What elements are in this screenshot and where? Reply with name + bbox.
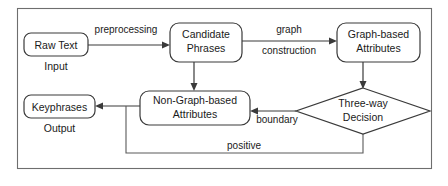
boundary-label: boundary [256,114,298,125]
preprocessing-label: preprocessing [95,24,158,35]
node-non-graph-based-attributes-label-2: Attributes [173,108,217,120]
node-candidate-phrases[interactable]: Candidate Phrases [170,23,242,62]
edge-non-graph-based-to-keyphrases [95,103,140,110]
node-raw-text[interactable]: Raw Text [24,33,88,56]
node-graph-based-attributes-label-2: Attributes [356,42,400,54]
construction-label: construction [262,45,316,56]
node-three-way-decision[interactable]: Three-way Decision [296,88,430,134]
node-graph-based-attributes[interactable]: Graph-based Attributes [337,23,420,62]
diagram-canvas: Raw Text Input Candidate Phrases Graph-b… [0,0,448,186]
node-graph-based-attributes-label-1: Graph-based [348,28,409,40]
graph-label: graph [276,24,302,35]
flowchart-diagram: Raw Text Input Candidate Phrases Graph-b… [0,0,448,186]
node-three-way-decision-label-2: Decision [343,111,383,123]
node-candidate-phrases-label-2: Phrases [187,42,226,54]
edge-raw-text-to-candidate-phrases [88,42,170,49]
node-non-graph-based-attributes[interactable]: Non-Graph-based Attributes [140,91,250,125]
output-label: Output [44,122,76,134]
edge-candidate-phrases-to-graph-based [242,38,337,45]
node-non-graph-based-attributes-label-1: Non-Graph-based [153,94,237,106]
node-raw-text-label: Raw Text [35,39,78,51]
positive-label: positive [227,140,261,151]
input-label: Input [44,60,67,72]
node-keyphrases-label: Keyphrases [32,101,87,113]
node-three-way-decision-label-1: Three-way [338,97,388,109]
edge-candidate-phrases-to-non-graph-based [191,62,198,91]
node-keyphrases[interactable]: Keyphrases [24,95,95,118]
node-candidate-phrases-label-1: Candidate [182,28,230,40]
edge-graph-based-to-three-way-decision [360,62,367,89]
